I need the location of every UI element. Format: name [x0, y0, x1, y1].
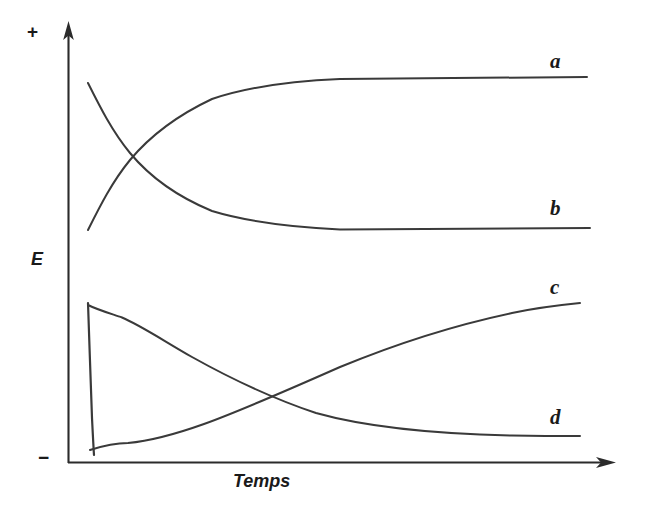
curve-label-a: a — [550, 49, 561, 73]
y-axis-label: E — [31, 249, 44, 269]
y-axis-positive-sign: + — [27, 21, 38, 42]
curve-label-b: b — [550, 196, 561, 220]
curve-label-c: c — [550, 275, 560, 299]
y-axis-negative-sign: − — [38, 447, 49, 468]
figure-root: + − E Temps a b c d — [0, 0, 646, 520]
curve-label-d: d — [550, 405, 561, 429]
x-axis-label: Temps — [233, 471, 290, 491]
kinetics-diagram: + − E Temps a b c d — [0, 0, 646, 520]
